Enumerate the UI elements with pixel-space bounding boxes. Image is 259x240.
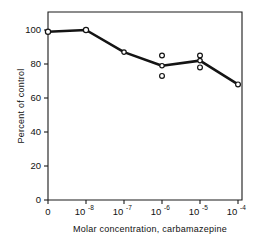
y-axis-tick-labels: 0 20 40 60 80 100	[25, 24, 41, 205]
x-tick-label-1e-8: 10 -8	[75, 204, 94, 217]
x-tick-base-2: 10	[113, 206, 124, 217]
y-tick-label-20: 20	[30, 160, 41, 171]
series-line-mean	[48, 30, 238, 84]
x-tick-base-3: 10	[151, 206, 162, 217]
x-tick-base-4: 10	[189, 206, 200, 217]
y-tick-label-80: 80	[30, 58, 41, 69]
marker-point-3	[160, 63, 164, 67]
chart-figure: 0 20 40 60 80 100 0 10 -8 10 -7	[0, 0, 259, 240]
scatter-point-3	[198, 65, 203, 70]
marker-point-4	[198, 58, 202, 62]
y-tick-label-100: 100	[25, 24, 41, 35]
plot-area: 0 20 40 60 80 100 0 10 -8 10 -7	[0, 0, 259, 240]
y-tick-label-40: 40	[30, 126, 41, 137]
series-markers	[45, 27, 240, 86]
x-tick-label-1e-4: 10 -4	[227, 204, 246, 217]
y-axis-ticks	[44, 30, 48, 200]
x-axis-ticks	[48, 200, 238, 204]
x-tick-base-1: 10	[75, 206, 86, 217]
x-tick-label-1e-6: 10 -6	[151, 204, 170, 217]
x-tick-exp-5: -4	[240, 204, 246, 211]
marker-point-2	[122, 50, 126, 54]
marker-point-1	[83, 27, 88, 32]
x-tick-exp-3: -6	[164, 204, 170, 211]
scatter-point-0	[160, 53, 165, 58]
scatter-point-2	[198, 53, 203, 58]
y-tick-label-0: 0	[36, 194, 41, 205]
y-axis-title: Percent of control	[16, 68, 26, 143]
x-tick-exp-2: -7	[126, 204, 132, 211]
x-tick-label-0: 0	[45, 206, 50, 217]
x-tick-exp-1: -8	[88, 204, 94, 211]
x-tick-label-1e-7: 10 -7	[113, 204, 132, 217]
x-tick-label-1e-5: 10 -5	[189, 204, 208, 217]
x-axis-title: Molar concentration, carbamazepine	[73, 224, 227, 234]
marker-point-0	[45, 29, 50, 34]
y-tick-label-60: 60	[30, 92, 41, 103]
marker-point-5	[236, 82, 241, 87]
x-axis-tick-labels: 0 10 -8 10 -7 10 -6 10 -5 10 -4	[45, 204, 246, 217]
scatter-point-1	[160, 74, 165, 79]
axes-frame	[48, 12, 242, 200]
x-tick-base-5: 10	[227, 206, 238, 217]
x-tick-exp-4: -5	[202, 204, 208, 211]
